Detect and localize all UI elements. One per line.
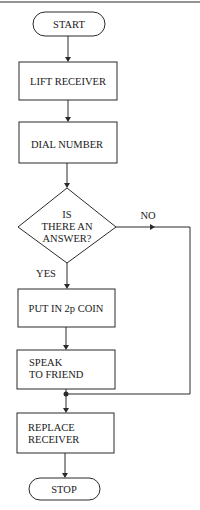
- node-start-label: START: [53, 19, 85, 30]
- junction-dot: [64, 392, 69, 397]
- node-dial-number: DIAL NUMBER: [19, 122, 117, 163]
- node-start: START: [33, 12, 105, 36]
- node-replace-receiver: REPLACE RECEIVER: [17, 413, 114, 453]
- node-put-in-coin: PUT IN 2p COIN: [18, 289, 115, 327]
- decision-label-line-3: ANSWER?: [43, 233, 92, 244]
- node-speak-to-friend: SPEAK TO FRIEND: [17, 350, 115, 389]
- process-box: [17, 413, 114, 453]
- decision-label-line-2: THERE AN: [41, 221, 92, 232]
- node-dial-label: DIAL NUMBER: [31, 139, 103, 150]
- arrowhead-icon: [150, 224, 155, 230]
- flowchart: START LIFT RECEIVER DIAL NUMBER IS THERE…: [0, 0, 200, 510]
- node-replace-label-line-1: REPLACE: [28, 422, 75, 433]
- arrowhead-icon: [63, 408, 69, 413]
- arrowhead-icon: [62, 473, 68, 478]
- node-lift-receiver: LIFT RECEIVER: [19, 62, 117, 100]
- node-speak-label-line-1: SPEAK: [29, 357, 63, 368]
- node-stop: STOP: [29, 478, 100, 500]
- edge-label-no: NO: [140, 210, 156, 221]
- edge-label-yes: YES: [36, 268, 56, 279]
- arrowhead-icon: [63, 345, 69, 350]
- node-speak-label-line-2: TO FRIEND: [29, 369, 84, 380]
- node-stop-label: STOP: [51, 484, 77, 495]
- decision-label-line-1: IS: [62, 209, 71, 220]
- node-answer-decision: IS THERE AN ANSWER?: [18, 188, 116, 263]
- arrowhead-icon: [65, 57, 71, 62]
- node-replace-label-line-2: RECEIVER: [28, 434, 79, 445]
- arrowhead-icon: [65, 117, 71, 122]
- node-coin-label: PUT IN 2p COIN: [29, 303, 104, 314]
- node-lift-label: LIFT RECEIVER: [30, 76, 106, 87]
- arrowhead-icon: [64, 284, 70, 289]
- arrowhead-icon: [64, 183, 70, 188]
